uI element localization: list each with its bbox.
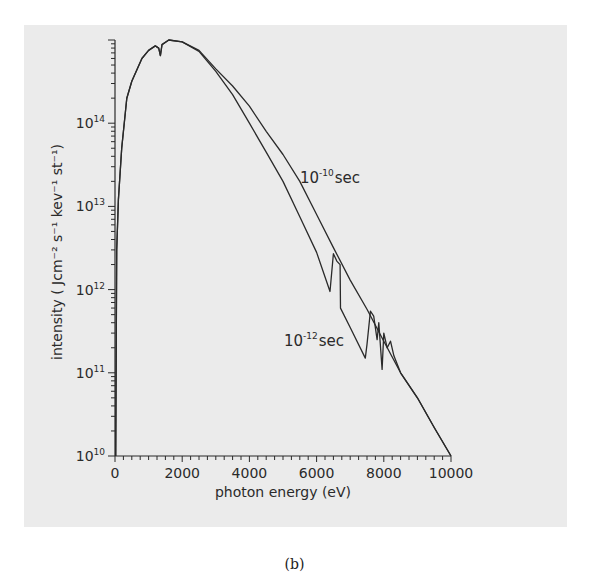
y-tick-label: 1011 — [76, 364, 105, 381]
y-tick-label: 1010 — [76, 447, 106, 464]
y-axis-title: intensity ( Jcm⁻² s⁻¹ kev⁻¹ st⁻¹) — [49, 144, 65, 360]
x-tick-label: 6000 — [299, 465, 335, 481]
axes — [108, 40, 451, 462]
x-axis-title: photon energy (eV) — [215, 484, 351, 500]
x-tick-label: 0 — [111, 465, 120, 481]
x-tick-label: 2000 — [164, 465, 200, 481]
y-tick-label: 1013 — [76, 197, 105, 214]
spectrum-chart: 0200040006000800010000101010111012101310… — [0, 0, 589, 587]
labels: 0200040006000800010000101010111012101310… — [49, 114, 473, 500]
figure-caption: (b) — [0, 556, 589, 572]
annotation-1e-12-sec: 10-12sec — [284, 331, 344, 350]
x-tick-label: 10000 — [429, 465, 474, 481]
y-tick-label: 1012 — [76, 281, 105, 298]
annotation-1e-10-sec: 10-10sec — [300, 168, 360, 187]
x-tick-label: 4000 — [232, 465, 268, 481]
curves — [116, 40, 451, 456]
curve-1e-12-sec — [116, 40, 451, 456]
curve-1e-10-sec — [116, 40, 451, 456]
y-tick-label: 1014 — [76, 114, 106, 131]
x-tick-label: 8000 — [366, 465, 402, 481]
